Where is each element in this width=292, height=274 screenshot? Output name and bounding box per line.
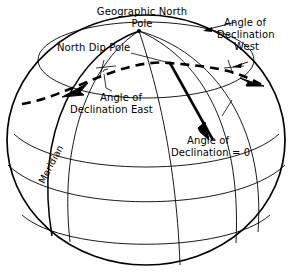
label-angle-declination-zero-line1: Angle of	[187, 135, 229, 146]
north-dip-pole-point	[168, 61, 171, 64]
label-angle-declination-west-line1: Angle of	[224, 17, 266, 28]
label-angle-declination-west-line3: West	[234, 41, 259, 52]
label-geographic-north-pole-line1: Geographic North	[84, 6, 200, 17]
label-geographic-north-pole-line2: Pole	[84, 18, 200, 29]
label-angle-declination-west-line2: Declination	[217, 29, 275, 40]
label-angle-declination-east-line2: Declination East	[70, 104, 153, 115]
label-angle-declination-zero-line2: Declination = 0	[171, 147, 250, 158]
label-angle-declination-east-line1: Angle of	[100, 92, 142, 103]
label-north-dip-pole: North Dip Pole	[57, 42, 130, 53]
declination-diagram: Geographic North Pole North Dip Pole Ang…	[0, 0, 292, 274]
geographic-north-pole-point	[137, 29, 141, 33]
